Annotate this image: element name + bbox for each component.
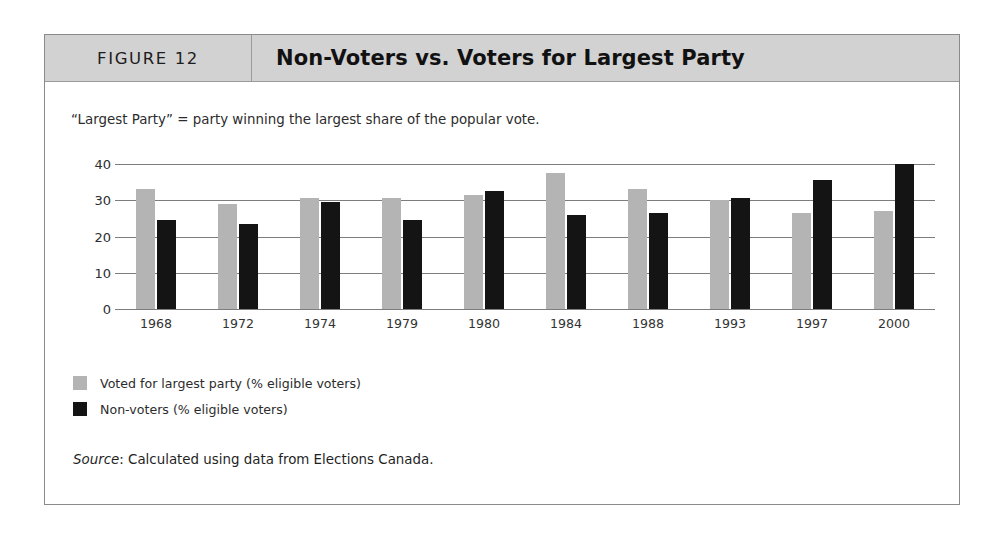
bar-group (874, 164, 914, 309)
chart-legend: Voted for largest party (% eligible vote… (73, 370, 361, 422)
bar-voted (546, 173, 565, 309)
bar-voted (792, 213, 811, 309)
x-axis-tick-label: 1972 (203, 316, 273, 331)
legend-item: Voted for largest party (% eligible vote… (73, 370, 361, 396)
bar-nonvoters (403, 220, 422, 309)
figure-header: FIGURE 12 Non-Voters vs. Voters for Larg… (45, 35, 959, 82)
figure-note: “Largest Party” = party winning the larg… (71, 112, 540, 127)
x-axis-tick-label: 1980 (449, 316, 519, 331)
bar-nonvoters (567, 215, 586, 309)
bar-nonvoters (731, 198, 750, 309)
figure-title: Non-Voters vs. Voters for Largest Party (252, 46, 959, 70)
source-text: : Calculated using data from Elections C… (119, 452, 433, 467)
bar-group (546, 164, 586, 309)
bar-nonvoters (895, 164, 914, 309)
source-word: Source (73, 452, 119, 467)
bar-group (464, 164, 504, 309)
bar-group (218, 164, 258, 309)
bar-group (382, 164, 422, 309)
x-axis-tick-label: 1974 (285, 316, 355, 331)
figure-number-label: FIGURE 12 (45, 49, 251, 68)
x-axis-tick-label: 1968 (121, 316, 191, 331)
bar-voted (464, 195, 483, 309)
bar-chart-plot: 010203040 196819721974197919801984198819… (71, 164, 936, 354)
x-axis-tick-label: 1979 (367, 316, 437, 331)
x-axis-tick-label: 1988 (613, 316, 683, 331)
x-axis-tick-label: 1984 (531, 316, 601, 331)
legend-label: Voted for largest party (% eligible vote… (100, 376, 361, 391)
y-axis-tick-label: 20 (75, 229, 111, 244)
figure-card: FIGURE 12 Non-Voters vs. Voters for Larg… (44, 34, 960, 505)
bar-group (136, 164, 176, 309)
x-axis-tick-label: 1993 (695, 316, 765, 331)
bar-group (300, 164, 340, 309)
bar-nonvoters (239, 224, 258, 309)
legend-swatch (73, 376, 87, 390)
source-note: Source: Calculated using data from Elect… (73, 452, 434, 467)
gridline (115, 309, 935, 310)
bar-voted (628, 189, 647, 309)
bar-voted (710, 200, 729, 309)
bars-container (115, 164, 935, 309)
y-axis-tick-label: 30 (75, 193, 111, 208)
x-axis-tick-labels: 1968197219741979198019841988199319972000 (115, 316, 935, 342)
bar-voted (382, 198, 401, 309)
bar-group (792, 164, 832, 309)
legend-swatch (73, 402, 87, 416)
bar-voted (218, 204, 237, 309)
y-axis-tick-labels: 010203040 (71, 164, 111, 309)
x-axis-tick-label: 1997 (777, 316, 847, 331)
x-axis-tick-label: 2000 (859, 316, 929, 331)
bar-nonvoters (813, 180, 832, 309)
figure-body: “Largest Party” = party winning the larg… (45, 82, 959, 504)
y-axis-tick-label: 0 (75, 302, 111, 317)
bar-voted (136, 189, 155, 309)
bar-voted (874, 211, 893, 309)
bar-nonvoters (157, 220, 176, 309)
bar-nonvoters (321, 202, 340, 309)
y-axis-tick-label: 10 (75, 265, 111, 280)
legend-item: Non-voters (% eligible voters) (73, 396, 361, 422)
y-axis-tick-label: 40 (75, 157, 111, 172)
bar-nonvoters (485, 191, 504, 309)
legend-label: Non-voters (% eligible voters) (100, 402, 288, 417)
bar-nonvoters (649, 213, 668, 309)
bar-group (628, 164, 668, 309)
bar-voted (300, 198, 319, 309)
bar-group (710, 164, 750, 309)
